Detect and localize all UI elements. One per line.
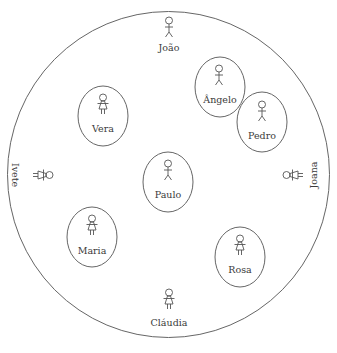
membership-ellipse-angelo [195, 57, 245, 117]
person-rosa: Rosa [228, 235, 252, 275]
person-maria: Maria [78, 215, 107, 256]
female-figure-icon [235, 235, 246, 255]
person-label-pedro: Pedro [248, 130, 276, 141]
person-joao: João [158, 17, 180, 53]
male-figure-icon [215, 65, 223, 85]
person-angelo: Ângelo [202, 65, 237, 105]
person-claudia: Cláudia [151, 289, 188, 328]
female-figure-icon [98, 94, 109, 114]
female-figure-icon [33, 170, 53, 181]
person-vera: Vera [91, 94, 114, 134]
female-figure-icon [164, 289, 175, 309]
female-figure-icon [283, 170, 303, 181]
membership-ellipse-maria [67, 207, 117, 267]
group-diagram: João Ângelo Pedro Vera Paulo Maria Rosa … [0, 0, 337, 353]
person-label-claudia: Cláudia [151, 317, 188, 328]
person-ivete: Ivete [10, 163, 53, 188]
person-label-vera: Vera [91, 123, 114, 134]
person-label-angelo: Ângelo [202, 94, 237, 105]
person-joana: Joana [283, 161, 319, 189]
person-pedro: Pedro [248, 101, 276, 141]
membership-ellipse-vera [78, 86, 128, 146]
person-label-joana: Joana [308, 161, 319, 189]
person-label-joao: João [158, 42, 180, 53]
person-label-rosa: Rosa [228, 264, 252, 275]
male-figure-icon [165, 17, 173, 37]
membership-ellipse-rosa [215, 227, 265, 287]
female-figure-icon [87, 215, 98, 235]
person-paulo: Paulo [155, 160, 182, 200]
male-figure-icon [164, 160, 172, 180]
person-label-maria: Maria [78, 245, 107, 256]
person-label-paulo: Paulo [155, 189, 182, 200]
male-figure-icon [258, 101, 266, 121]
membership-ellipse-paulo [143, 152, 193, 212]
person-label-ivete: Ivete [10, 163, 21, 188]
